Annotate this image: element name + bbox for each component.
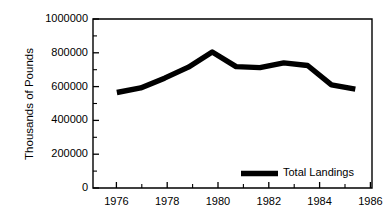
y-axis-title: Thousands of Pounds bbox=[23, 48, 35, 160]
y-tick-label-400000: 400000 bbox=[51, 113, 88, 125]
y-tick-label-600000: 600000 bbox=[51, 80, 88, 92]
y-tick-label-1000000: 1000000 bbox=[45, 12, 88, 24]
x-tick-label-1986: 1986 bbox=[358, 195, 382, 207]
y-tick-label-800000: 800000 bbox=[51, 46, 88, 58]
legend-label-total-landings: Total Landings bbox=[283, 166, 354, 178]
x-tick-label-1980: 1980 bbox=[206, 195, 230, 207]
y-tick-label-0: 0 bbox=[82, 181, 88, 193]
line-chart-figure: Thousands of Pounds 0 200000 400000 6000… bbox=[0, 0, 392, 222]
x-tick-label-1978: 1978 bbox=[155, 195, 179, 207]
x-tick-label-1984: 1984 bbox=[307, 195, 331, 207]
y-tick-label-200000: 200000 bbox=[51, 147, 88, 159]
x-tick-label-1976: 1976 bbox=[104, 195, 128, 207]
x-tick-label-1982: 1982 bbox=[257, 195, 281, 207]
